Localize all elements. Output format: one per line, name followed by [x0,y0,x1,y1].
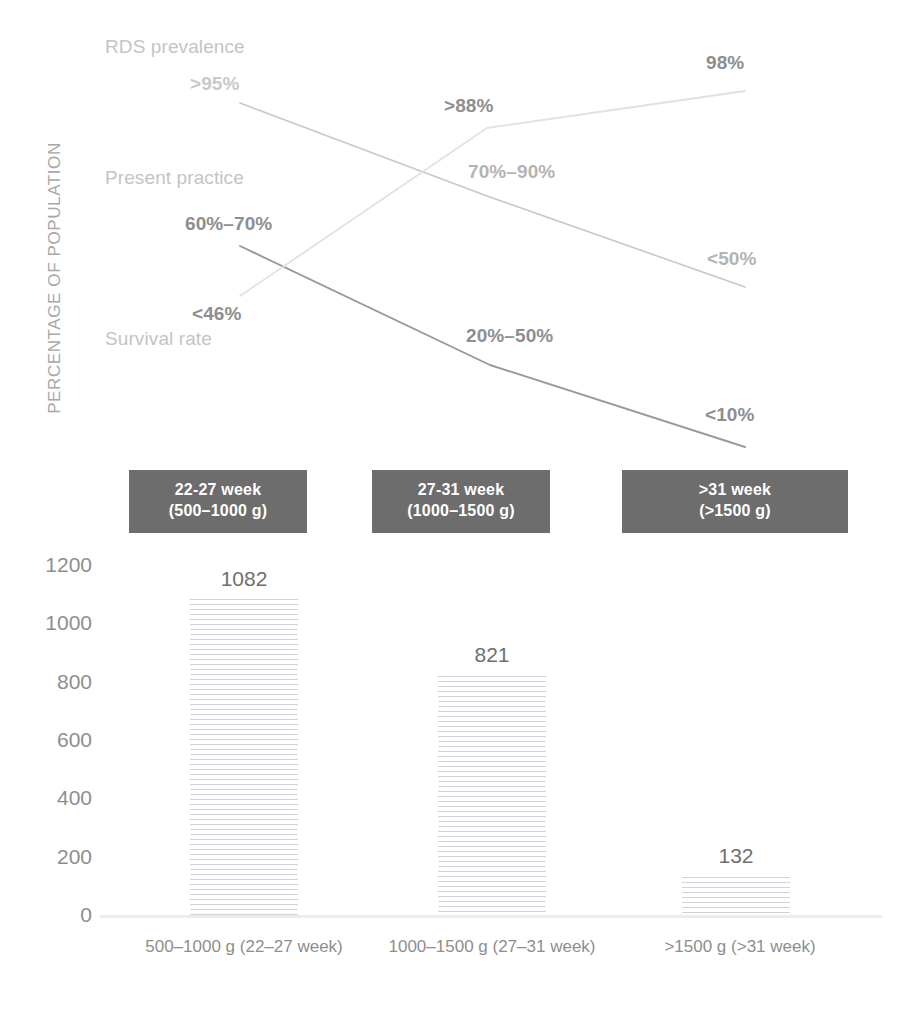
value-rds-mid: >88% [444,95,494,117]
series-title-rds-prevalence: RDS prevalence [105,36,245,58]
x-tick-over-1500g: >1500 g (>31 week) [664,937,815,957]
category-box-over-31-week: >31 week (>1500 g) [622,470,848,533]
bar-1000-1500g [438,676,546,916]
y-tick-800: 800 [20,670,92,694]
bar-value-1000-1500g: 821 [474,643,509,667]
bar-500-1000g [190,599,298,915]
category-box-line2: (1000–1500 g) [372,500,550,521]
y-tick-200: 200 [20,845,92,869]
series-title-survival-rate: Survival rate [105,328,212,350]
rds-prevalence-line [240,91,745,296]
value-rds-left: <46% [192,303,242,325]
slope-graph-panel: PERCENTAGE OF POPULATION RDS prevalence … [0,0,904,555]
y-tick-600: 600 [20,728,92,752]
value-practice-left: >95% [190,73,240,95]
series-title-present-practice: Present practice [105,167,244,189]
category-box-22-27-week: 22-27 week (500–1000 g) [129,470,307,533]
category-box-line1: 22-27 week [175,481,262,498]
present-practice-line [240,103,745,287]
x-tick-1000-1500g: 1000–1500 g (27–31 week) [389,937,596,957]
category-box-line1: 27-31 week [418,481,505,498]
value-rds-right: 98% [706,52,744,74]
value-survival-left: 60%–70% [185,213,272,235]
y-axis-ticks: 0 200 400 600 800 1000 1200 [20,565,92,945]
x-axis-baseline [100,915,882,918]
bar-value-500-1000g: 1082 [221,567,268,591]
y-tick-400: 400 [20,786,92,810]
y-tick-0: 0 [20,903,92,927]
y-tick-1200: 1200 [20,553,92,577]
value-survival-mid: 20%–50% [466,325,553,347]
value-practice-mid: 70%–90% [468,161,555,183]
y-tick-1000: 1000 [20,611,92,635]
category-box-line2: (500–1000 g) [129,500,307,521]
chart-page: PERCENTAGE OF POPULATION RDS prevalence … [0,0,904,1035]
x-tick-500-1000g: 500–1000 g (22–27 week) [145,937,343,957]
category-box-27-31-week: 27-31 week (1000–1500 g) [372,470,550,533]
value-survival-right: <10% [705,404,755,426]
bar-value-over-1500g: 132 [718,844,753,868]
value-practice-right: <50% [707,248,757,270]
category-box-line1: >31 week [699,481,771,498]
bar-over-1500g [682,877,790,916]
category-box-line2: (>1500 g) [622,500,848,521]
bar-chart-panel: 0 200 400 600 800 1000 1200 1082 821 132… [0,565,904,1035]
